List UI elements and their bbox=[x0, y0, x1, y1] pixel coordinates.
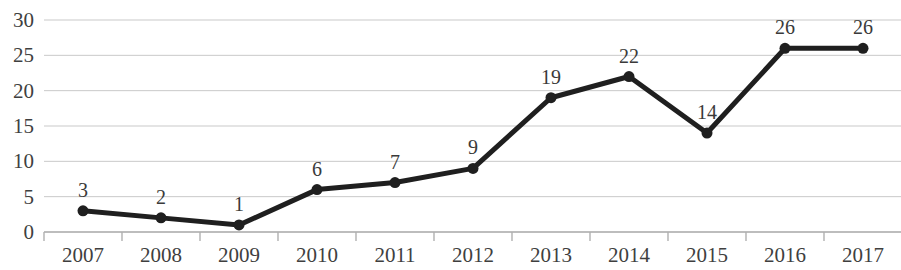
y-axis-tick-label: 15 bbox=[13, 116, 34, 137]
data-point-marker bbox=[156, 212, 167, 223]
line-chart: 051015202530 200720082009201020112012201… bbox=[0, 0, 901, 270]
x-axis-tick-label: 2008 bbox=[140, 245, 182, 266]
x-axis-tick-label: 2009 bbox=[218, 245, 260, 266]
data-point-label: 6 bbox=[312, 159, 322, 179]
chart-plot-area bbox=[0, 0, 901, 270]
x-axis-tick-label: 2011 bbox=[374, 245, 415, 266]
data-point-label: 1 bbox=[234, 194, 244, 214]
x-axis-ticks bbox=[44, 232, 824, 241]
y-axis-tick-label: 0 bbox=[24, 222, 35, 243]
data-point-label: 7 bbox=[390, 152, 400, 172]
y-axis-tick-label: 20 bbox=[13, 80, 34, 101]
data-point-marker bbox=[702, 128, 713, 139]
x-axis-tick-label: 2017 bbox=[842, 245, 884, 266]
y-axis-tick-label: 10 bbox=[13, 151, 34, 172]
data-point-marker bbox=[78, 205, 89, 216]
x-axis-tick-label: 2016 bbox=[764, 245, 806, 266]
data-point-marker bbox=[858, 43, 869, 54]
data-point-label: 2 bbox=[156, 187, 166, 207]
data-point-label: 26 bbox=[853, 17, 873, 37]
x-axis-tick-label: 2007 bbox=[62, 245, 104, 266]
data-point-marker bbox=[312, 184, 323, 195]
data-point-marker bbox=[468, 163, 479, 174]
data-point-label: 9 bbox=[468, 137, 478, 157]
data-point-label: 14 bbox=[697, 102, 717, 122]
data-point-marker bbox=[234, 219, 245, 230]
data-point-marker bbox=[390, 177, 401, 188]
data-point-label: 26 bbox=[775, 17, 795, 37]
y-axis-tick-label: 30 bbox=[13, 10, 34, 31]
data-point-marker bbox=[624, 71, 635, 82]
x-axis-tick-label: 2013 bbox=[530, 245, 572, 266]
data-point-label: 19 bbox=[541, 67, 561, 87]
y-axis-tick-label: 5 bbox=[24, 186, 35, 207]
data-point-marker bbox=[780, 43, 791, 54]
data-point-label: 22 bbox=[619, 46, 639, 66]
x-axis-tick-label: 2012 bbox=[452, 245, 494, 266]
gridlines-group bbox=[44, 20, 901, 232]
x-axis-tick-label: 2014 bbox=[608, 245, 650, 266]
x-axis-tick-label: 2015 bbox=[686, 245, 728, 266]
data-point-marker bbox=[546, 92, 557, 103]
x-axis-tick-label: 2010 bbox=[296, 245, 338, 266]
y-axis-tick-label: 25 bbox=[13, 45, 34, 66]
data-point-label: 3 bbox=[78, 180, 88, 200]
